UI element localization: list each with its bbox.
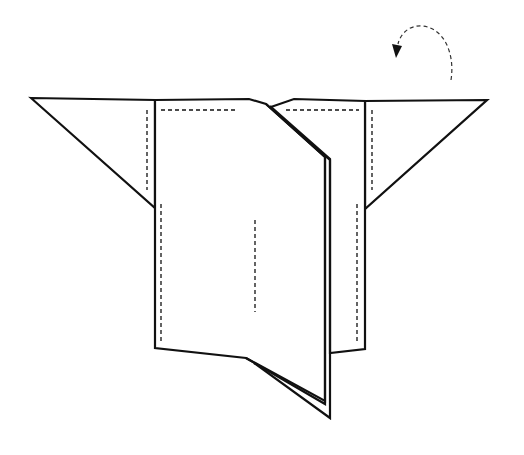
origami-diagram [0, 0, 524, 455]
left-sleeve [31, 98, 155, 208]
right-sleeve [365, 100, 487, 209]
curved-dashed-arrow-icon [392, 26, 452, 80]
front-body-panel [155, 99, 325, 401]
